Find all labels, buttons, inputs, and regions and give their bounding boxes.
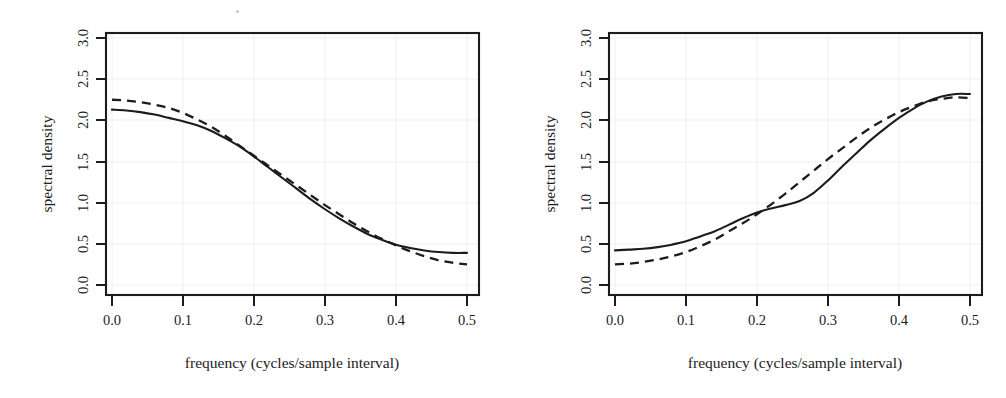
x-axis-title-right: frequency (cycles/sample interval) [688, 354, 902, 372]
y-tick-label: 0.5 [578, 235, 594, 253]
y-tick-label: 2.0 [578, 111, 594, 129]
x-tick-label: 0.0 [103, 312, 121, 328]
x-tick-label: 0.5 [458, 312, 476, 328]
y-axis-title-left: spectral density [38, 115, 55, 212]
y-tick-label: 3.0 [75, 29, 91, 47]
y-axis-ticks-left [96, 38, 106, 285]
gridlines-right [609, 33, 982, 295]
y-tick-label: 2.0 [75, 111, 91, 129]
y-tick-label: 2.5 [75, 70, 91, 88]
x-tick-label: 0.1 [174, 312, 192, 328]
y-tick-label: 1.0 [75, 194, 91, 212]
x-tick-label: 0.3 [316, 312, 334, 328]
x-tick-label: 0.5 [961, 312, 979, 328]
y-tick-label: 0.0 [578, 276, 594, 294]
x-axis-ticks-right [615, 296, 970, 306]
chart-panel-left: 0.0 0.5 1.0 1.5 2.0 2.5 3.0 0.0 0.1 0.2 … [0, 0, 503, 398]
y-axis-title-right: spectral density [541, 115, 558, 212]
y-tick-label: 3.0 [578, 29, 594, 47]
chart-panel-right: 0.0 0.5 1.0 1.5 2.0 2.5 3.0 0.0 0.1 0.2 … [503, 0, 1006, 398]
y-tick-label: 1.0 [578, 194, 594, 212]
series-line-dashed-right [615, 97, 970, 264]
x-tick-label: 0.0 [606, 312, 624, 328]
y-axis-ticks-right [599, 38, 609, 285]
x-tick-label: 0.4 [387, 312, 406, 328]
y-tick-label: 0.5 [75, 235, 91, 253]
x-tick-label: 0.2 [748, 312, 766, 328]
x-axis-ticks-left [112, 296, 467, 306]
series-line-solid-right [615, 94, 970, 251]
x-tick-labels-right: 0.0 0.1 0.2 0.3 0.4 0.5 [606, 312, 979, 328]
x-tick-label: 0.2 [245, 312, 263, 328]
plot-frame-right [609, 33, 982, 295]
y-tick-label: 0.0 [75, 276, 91, 294]
spectral-density-figure: 0.0 0.5 1.0 1.5 2.0 2.5 3.0 0.0 0.1 0.2 … [0, 0, 1006, 398]
chart-svg-right: 0.0 0.5 1.0 1.5 2.0 2.5 3.0 0.0 0.1 0.2 … [503, 0, 1006, 398]
y-tick-label: 2.5 [578, 70, 594, 88]
chart-svg-left: 0.0 0.5 1.0 1.5 2.0 2.5 3.0 0.0 0.1 0.2 … [0, 0, 503, 398]
y-tick-label: 1.5 [75, 153, 91, 171]
y-tick-label: 1.5 [578, 153, 594, 171]
x-axis-title-left: frequency (cycles/sample interval) [185, 354, 399, 372]
scan-speck [236, 10, 239, 13]
x-tick-labels-left: 0.0 0.1 0.2 0.3 0.4 0.5 [103, 312, 476, 328]
y-tick-labels-left: 0.0 0.5 1.0 1.5 2.0 2.5 3.0 [75, 29, 91, 294]
x-tick-label: 0.3 [819, 312, 837, 328]
x-tick-label: 0.4 [890, 312, 909, 328]
x-tick-label: 0.1 [677, 312, 695, 328]
y-tick-labels-right: 0.0 0.5 1.0 1.5 2.0 2.5 3.0 [578, 29, 594, 294]
